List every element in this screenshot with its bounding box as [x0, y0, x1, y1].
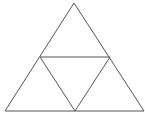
triangle-diagram — [0, 0, 145, 118]
inner-triangle — [40, 57, 110, 111]
